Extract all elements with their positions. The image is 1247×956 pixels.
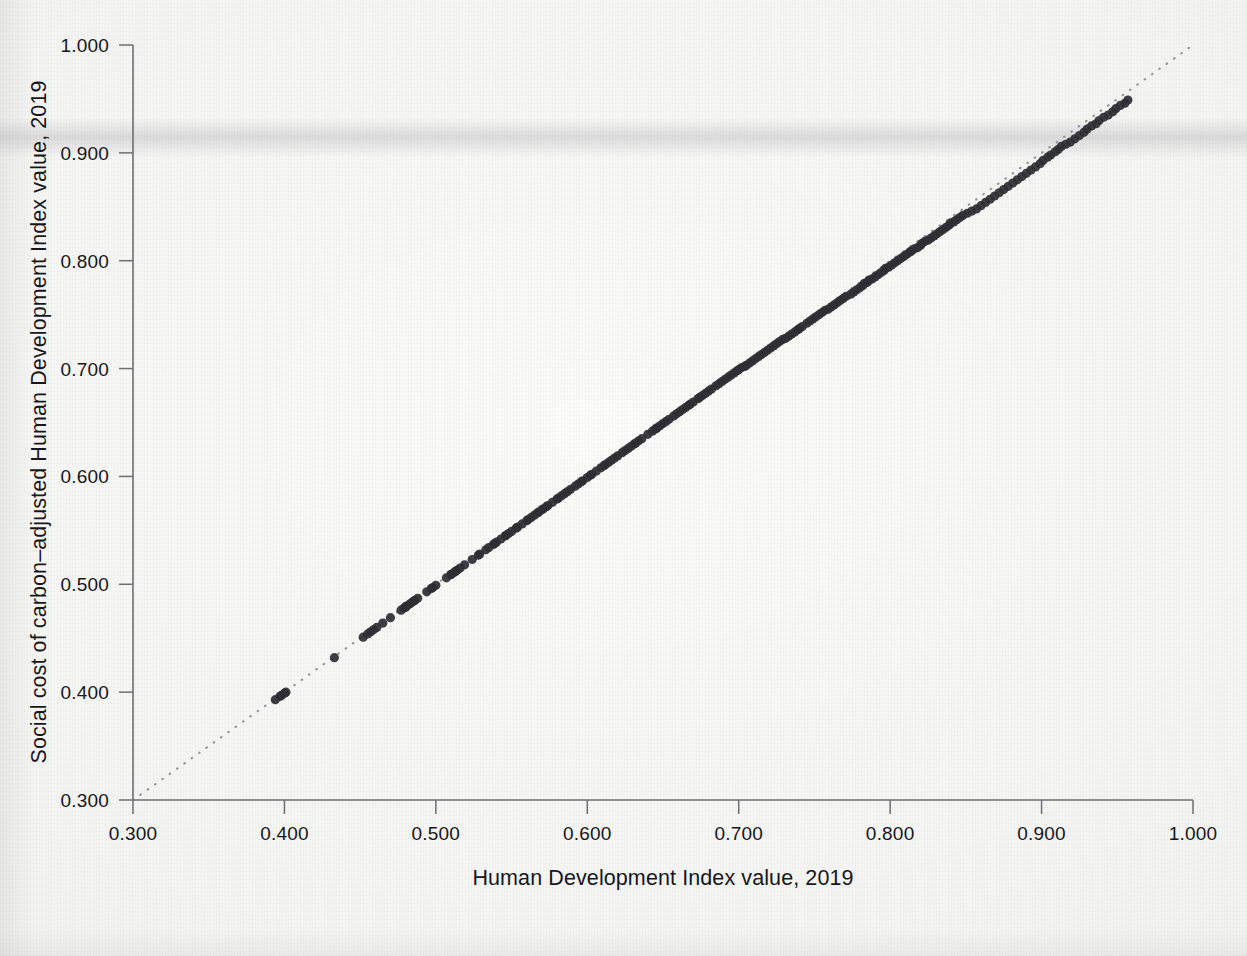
data-point: [460, 560, 469, 569]
y-tick-label: 0.500: [60, 574, 109, 595]
x-tick-label: 1.000: [1169, 823, 1218, 844]
y-tick-label: 0.800: [60, 251, 109, 272]
y-tick-label: 0.700: [60, 359, 109, 380]
data-point: [1123, 95, 1132, 104]
x-tick-label: 0.400: [260, 823, 309, 844]
data-point: [330, 653, 339, 662]
x-tick-label: 0.500: [412, 823, 461, 844]
y-tick-label: 0.900: [60, 143, 109, 164]
x-tick-label: 0.700: [714, 823, 763, 844]
data-point: [386, 613, 395, 622]
scatter-chart-figure: 0.3000.4000.5000.6000.7000.8000.9001.000…: [0, 0, 1247, 956]
x-axis-title: Human Development Index value, 2019: [472, 866, 853, 890]
x-tick-label: 0.300: [109, 823, 158, 844]
data-points-group: [271, 95, 1133, 704]
x-tick-label: 0.600: [563, 823, 612, 844]
y-tick-label: 0.600: [60, 466, 109, 487]
y-axis-title: Social cost of carbon–adjusted Human Dev…: [27, 80, 51, 763]
data-point: [378, 619, 387, 628]
y-tick-label: 1.000: [60, 35, 109, 56]
plot-canvas: 0.3000.4000.5000.6000.7000.8000.9001.000…: [0, 0, 1247, 956]
y-tick-label: 0.300: [60, 790, 109, 811]
data-point: [413, 594, 422, 603]
y-axis-ticks: 0.3000.4000.5000.6000.7000.8000.9001.000: [60, 35, 133, 811]
y-tick-label: 0.400: [60, 682, 109, 703]
data-point: [431, 581, 440, 590]
data-point: [281, 688, 290, 697]
x-tick-label: 0.800: [866, 823, 915, 844]
x-axis-ticks: 0.3000.4000.5000.6000.7000.8000.9001.000: [109, 800, 1218, 844]
x-tick-label: 0.900: [1017, 823, 1066, 844]
